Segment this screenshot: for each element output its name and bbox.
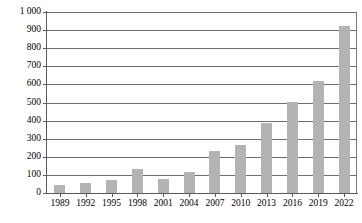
x-tick-label-2007: 2007 [202, 199, 228, 209]
y-tick-mark-600 [43, 84, 47, 85]
x-tick-label-2013: 2013 [254, 199, 280, 209]
x-tick-label-1998: 1998 [124, 199, 150, 209]
bar-2019 [313, 81, 324, 193]
y-tick-label-500: 500 [0, 98, 41, 108]
x-tick-mark-2004 [189, 193, 190, 197]
bar-1998 [132, 169, 143, 193]
y-tick-label-400: 400 [0, 116, 41, 126]
y-tick-label-800: 800 [0, 43, 41, 53]
x-tick-mark-2010 [241, 193, 242, 197]
x-tick-mark-2022 [344, 193, 345, 197]
y-tick-mark-700 [43, 66, 47, 67]
x-tick-label-1992: 1992 [73, 199, 99, 209]
x-tick-mark-2016 [292, 193, 293, 197]
y-tick-label-300: 300 [0, 134, 41, 144]
x-tick-label-2004: 2004 [176, 199, 202, 209]
gridline-300 [47, 139, 357, 140]
x-tick-label-2001: 2001 [150, 199, 176, 209]
y-tick-label-200: 200 [0, 152, 41, 162]
y-tick-mark-800 [43, 48, 47, 49]
x-tick-label-2010: 2010 [228, 199, 254, 209]
y-tick-mark-200 [43, 157, 47, 158]
bar-1992 [80, 183, 91, 193]
gridline-200 [47, 157, 357, 158]
gridline-1000 [47, 12, 357, 13]
y-tick-label-100: 100 [0, 170, 41, 180]
bar-2022 [339, 26, 350, 193]
y-tick-mark-400 [43, 121, 47, 122]
gridline-100 [47, 175, 357, 176]
bar-2016 [287, 102, 298, 193]
plot-area [47, 12, 357, 193]
x-tick-mark-1992 [86, 193, 87, 197]
x-tick-mark-2013 [267, 193, 268, 197]
gridline-800 [47, 48, 357, 49]
x-tick-mark-2001 [163, 193, 164, 197]
y-tick-label-0: 0 [0, 188, 41, 198]
gridline-700 [47, 66, 357, 67]
gridline-500 [47, 103, 357, 104]
x-tick-mark-2019 [318, 193, 319, 197]
y-tick-label-700: 700 [0, 61, 41, 71]
x-tick-label-1995: 1995 [99, 199, 125, 209]
x-tick-mark-1998 [137, 193, 138, 197]
x-tick-mark-1995 [112, 193, 113, 197]
x-tick-label-2016: 2016 [279, 199, 305, 209]
bar-2001 [158, 179, 169, 193]
x-axis-line [46, 193, 358, 194]
y-tick-label-900: 900 [0, 25, 41, 35]
y-tick-mark-100 [43, 175, 47, 176]
y-tick-mark-500 [43, 103, 47, 104]
bar-2007 [209, 151, 220, 193]
bar-2004 [184, 172, 195, 193]
gridline-600 [47, 84, 357, 85]
gridline-400 [47, 121, 357, 122]
bar-2013 [261, 123, 272, 193]
bar-2010 [235, 145, 246, 193]
x-tick-mark-1989 [60, 193, 61, 197]
y-tick-label-1000: 1 000 [0, 7, 41, 17]
bar-chart: 01002003004005006007008009001 000 198919… [0, 0, 362, 223]
bar-1995 [106, 180, 117, 193]
y-tick-mark-300 [43, 139, 47, 140]
x-tick-label-2022: 2022 [331, 199, 357, 209]
y-tick-mark-0 [43, 193, 47, 194]
x-tick-mark-2007 [215, 193, 216, 197]
bar-1989 [54, 185, 65, 193]
y-tick-mark-900 [43, 30, 47, 31]
x-tick-label-1989: 1989 [47, 199, 73, 209]
y-tick-label-600: 600 [0, 79, 41, 89]
x-tick-label-2019: 2019 [305, 199, 331, 209]
gridline-900 [47, 30, 357, 31]
y-tick-mark-1000 [43, 12, 47, 13]
